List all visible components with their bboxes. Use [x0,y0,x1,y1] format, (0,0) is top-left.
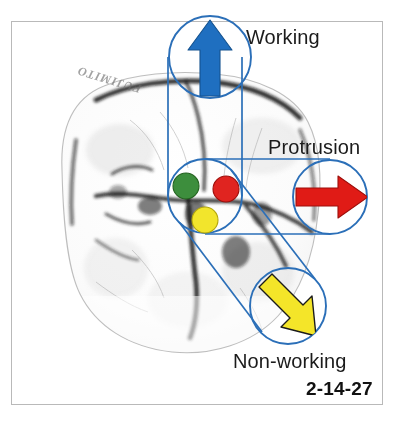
yellow-contact-dot [192,207,218,233]
red-contact-dot [213,176,239,202]
nonworking-label: Non-working [233,350,346,372]
arrow-down-right-icon [259,274,316,336]
figure-root: FUJIMITO [0,0,403,423]
arrow-right-icon [296,176,368,218]
green-contact-dot [173,173,199,199]
arrow-up-icon [188,20,232,96]
protrusion-label: Protrusion [268,136,360,158]
working-label: Working [246,26,320,48]
connector-nonworking-upper [231,170,315,279]
figure-number: 2-14-27 [306,378,373,400]
connector-nonworking-lower [179,222,262,332]
